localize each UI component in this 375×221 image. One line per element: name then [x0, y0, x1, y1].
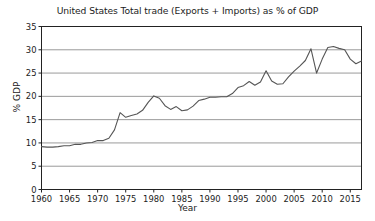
- x-tick-label: 2000: [255, 194, 276, 204]
- x-tick-label: 1980: [143, 194, 164, 204]
- y-axis-ticks: 05101520253035: [26, 22, 42, 195]
- chart-figure: United States Total trade (Exports + Imp…: [0, 0, 375, 221]
- x-tick-label: 1970: [87, 194, 108, 204]
- y-axis-label: % GDP: [12, 67, 22, 127]
- gridlines: [42, 50, 362, 166]
- x-axis-label: Year: [0, 203, 375, 213]
- x-tick-label: 2015: [340, 194, 361, 204]
- x-tick-label: 2005: [283, 194, 304, 204]
- y-tick-label: 15: [26, 115, 37, 125]
- y-tick-label: 10: [26, 138, 37, 148]
- y-tick-label: 5: [31, 161, 36, 171]
- x-tick-label: 1995: [227, 194, 248, 204]
- y-tick-label: 30: [26, 45, 37, 55]
- x-tick-label: 1990: [199, 194, 220, 204]
- x-axis-ticks: 1960196519701975198019851990199520002005…: [31, 190, 361, 204]
- y-tick-label: 25: [26, 68, 37, 78]
- y-tick-label: 20: [26, 91, 37, 101]
- x-tick-label: 1975: [115, 194, 136, 204]
- plot-area-border: [42, 27, 362, 190]
- x-tick-label: 1960: [31, 194, 52, 204]
- line-chart-plot: 05101520253035 1960196519701975198019851…: [0, 0, 375, 221]
- x-tick-label: 1965: [59, 194, 80, 204]
- x-tick-label: 1985: [171, 194, 192, 204]
- y-tick-label: 35: [26, 22, 37, 32]
- x-tick-label: 2010: [312, 194, 333, 204]
